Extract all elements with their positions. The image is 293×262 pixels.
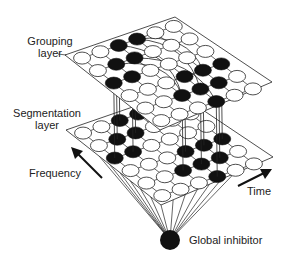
segmentation-layer-inactive-oscillator — [122, 165, 139, 177]
grouping-layer-active-oscillator — [110, 39, 127, 51]
grouping-layer-inactive-oscillator — [142, 64, 159, 76]
grouping-layer-inactive-oscillator — [181, 33, 198, 45]
global-inhibitor-node — [160, 230, 180, 250]
grouping-layer-inactive-oscillator — [121, 90, 138, 102]
grouping-layer-inactive-oscillator — [158, 77, 175, 89]
grouping-layer-active-oscillator — [176, 71, 193, 83]
grouping-layer-inactive-oscillator — [189, 102, 206, 114]
grouping-layer-active-oscillator — [124, 71, 141, 83]
segmentation-layer-inactive-oscillator — [154, 190, 171, 202]
grouping-layer-label-line2: layer — [38, 47, 62, 59]
grouping-layer-inactive-oscillator — [179, 52, 196, 64]
grouping-layer-active-oscillator — [213, 58, 230, 70]
grouping-layer-active-oscillator — [108, 58, 125, 70]
grouping-layer-inactive-oscillator — [197, 45, 214, 57]
grouping-layer-inactive-oscillator — [226, 89, 243, 101]
frequency-axis-label: Frequency — [29, 167, 81, 179]
grouping-layer-inactive-oscillator — [153, 115, 170, 127]
segmentation-layer-inactive-oscillator — [156, 171, 173, 183]
segmentation-layer-inactive-oscillator — [75, 127, 92, 139]
time-axis-label: Time — [247, 185, 271, 197]
grouping-layer-active-oscillator — [192, 83, 209, 95]
grouping-layer-active-oscillator — [174, 89, 191, 101]
segmentation-layer-inactive-oscillator — [227, 164, 244, 176]
grouping-layer-inactive-oscillator — [137, 102, 154, 114]
grouping-layer-inactive-oscillator — [89, 65, 106, 77]
grouping-layer-inactive-oscillator — [147, 27, 164, 39]
grouping-layer-inactive-oscillator — [171, 108, 188, 120]
grouping-layer-inactive-oscillator — [155, 96, 172, 108]
segmentation-layer-inactive-oscillator — [159, 152, 176, 164]
segmentation-layer-inactive-oscillator — [230, 145, 247, 157]
grouping-layer-inactive-oscillator — [92, 46, 109, 58]
grouping-layer-inactive-oscillator — [160, 58, 177, 70]
grouping-layer-inactive-oscillator — [165, 20, 182, 32]
grouping-layer-active-oscillator — [208, 96, 225, 108]
segmentation-layer-inactive-oscillator — [138, 177, 155, 189]
global-inhibitor-label: Global inhibitor — [189, 234, 263, 246]
segmentation-layer-inactive-oscillator — [190, 177, 207, 189]
grouping-layer-active-oscillator — [129, 33, 146, 45]
segmentation-layer-inactive-oscillator — [172, 183, 189, 195]
grouping-layer-active-oscillator — [126, 52, 143, 64]
grouping-layer-inactive-oscillator — [244, 83, 261, 95]
segmentation-layer-inactive-oscillator — [161, 133, 178, 145]
grouping-layer-inactive-oscillator — [163, 39, 180, 51]
grouping-layer-active-oscillator — [194, 64, 211, 76]
grouping-layer-inactive-oscillator — [74, 52, 91, 64]
segmentation-layer-label-line1: Segmentation — [13, 107, 81, 119]
segmentation-layer-inactive-oscillator — [140, 158, 157, 170]
grouping-layer-active-oscillator — [210, 77, 227, 89]
grouping-layer-inactive-oscillator — [144, 46, 161, 58]
grouping-layer-active-oscillator — [105, 77, 122, 89]
segmentation-layer-label-line2: layer — [35, 119, 59, 131]
segmentation-layer-inactive-oscillator — [90, 140, 107, 152]
segmentation-layer-inactive-oscillator — [245, 158, 262, 170]
grouping-layer-inactive-oscillator — [229, 70, 246, 82]
two-layer-oscillator-network-diagram: Grouping layer Segmentation layer Freque… — [0, 0, 293, 262]
segmentation-layer-inactive-oscillator — [143, 139, 160, 151]
grouping-layer — [65, 17, 272, 130]
segmentation-layer-inactive-oscillator — [93, 121, 110, 133]
grouping-layer-inactive-oscillator — [139, 83, 156, 95]
grouping-layer-label-line1: Grouping — [27, 35, 72, 47]
